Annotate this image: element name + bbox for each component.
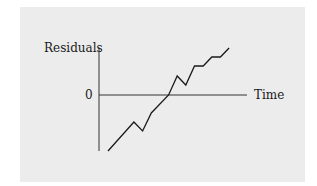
residual-plot: Residuals 0 Time — [0, 0, 317, 186]
y-axis-label: Residuals — [44, 41, 103, 55]
residual-series-line — [108, 48, 229, 151]
x-axis-label: Time — [254, 88, 284, 102]
zero-tick-label: 0 — [85, 88, 93, 102]
